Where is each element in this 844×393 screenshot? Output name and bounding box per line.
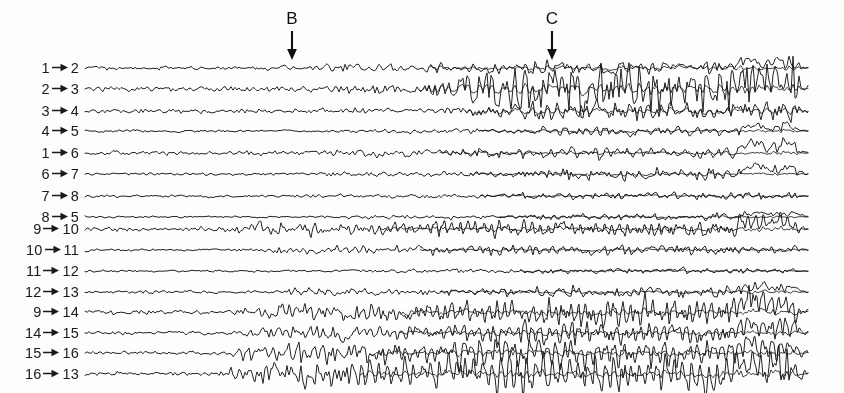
event-letter: C <box>546 10 559 27</box>
channel-to: 2 <box>71 61 79 76</box>
channel-to: 6 <box>71 146 79 161</box>
channel-from: 1 <box>41 146 49 161</box>
arrow-down-icon <box>286 31 299 64</box>
eeg-trace-canvas <box>0 0 844 393</box>
event-b: B <box>286 10 299 64</box>
channel-label-7-8: 78 <box>41 188 79 203</box>
arrow-right-icon <box>52 61 69 76</box>
channel-to: 11 <box>64 243 79 258</box>
arrow-right-icon <box>45 243 62 258</box>
channel-to: 4 <box>71 104 79 119</box>
channel-label-14-15: 1415 <box>25 325 79 340</box>
channel-label-6-7: 67 <box>41 166 79 181</box>
eeg-figure: 1223344516677885910101111121213914141515… <box>0 0 844 393</box>
arrow-right-icon <box>43 285 60 300</box>
channel-to: 16 <box>62 346 79 361</box>
channel-from: 9 <box>33 222 41 237</box>
channel-to: 12 <box>62 264 79 279</box>
arrow-right-icon <box>43 326 60 341</box>
channel-to: 7 <box>71 167 79 182</box>
channel-from: 11 <box>26 264 41 279</box>
arrow-right-icon <box>52 189 69 204</box>
channel-from: 6 <box>41 167 49 182</box>
channel-from: 7 <box>41 189 49 204</box>
channel-to: 13 <box>62 285 79 300</box>
channel-label-15-16: 1516 <box>25 345 79 360</box>
channel-label-4-5: 45 <box>41 123 79 138</box>
channel-label-11-12: 1112 <box>26 263 79 278</box>
channel-from: 9 <box>33 305 41 320</box>
channel-from: 16 <box>25 367 42 382</box>
channel-label-9-14: 914 <box>33 304 79 319</box>
arrow-right-icon <box>52 167 69 182</box>
channel-from: 14 <box>25 326 42 341</box>
channel-label-16-13: 1613 <box>25 366 79 381</box>
arrow-right-icon <box>43 367 60 382</box>
channel-label-12-13: 1213 <box>25 284 79 299</box>
channel-from: 15 <box>25 346 42 361</box>
channel-to: 8 <box>71 189 79 204</box>
arrow-right-icon <box>43 346 60 361</box>
arrow-right-icon <box>52 104 69 119</box>
channel-from: 4 <box>41 124 49 139</box>
channel-to: 15 <box>62 326 79 341</box>
channel-to: 3 <box>71 82 79 97</box>
channel-label-3-4: 34 <box>41 103 79 118</box>
arrow-down-icon <box>546 31 559 64</box>
event-letter: B <box>286 10 299 27</box>
arrow-right-icon <box>43 305 60 320</box>
channel-label-9-10: 910 <box>33 221 79 236</box>
arrow-right-icon <box>52 124 69 139</box>
channel-label-1-2: 12 <box>41 60 79 75</box>
channel-from: 3 <box>41 104 49 119</box>
channel-from: 12 <box>25 285 42 300</box>
channel-from: 2 <box>41 82 49 97</box>
channel-from: 1 <box>41 61 49 76</box>
arrow-right-icon <box>43 222 60 237</box>
arrow-right-icon <box>52 82 69 97</box>
channel-label-1-6: 16 <box>41 145 79 160</box>
channel-to: 14 <box>62 305 79 320</box>
channel-to: 10 <box>62 222 79 237</box>
arrow-right-icon <box>52 146 69 161</box>
channel-from: 10 <box>26 243 43 258</box>
channel-label-2-3: 23 <box>41 81 79 96</box>
arrow-right-icon <box>43 264 60 279</box>
channel-to: 5 <box>71 124 79 139</box>
channel-label-10-11: 1011 <box>26 242 79 257</box>
channel-to: 13 <box>62 367 79 382</box>
event-c: C <box>546 10 559 64</box>
